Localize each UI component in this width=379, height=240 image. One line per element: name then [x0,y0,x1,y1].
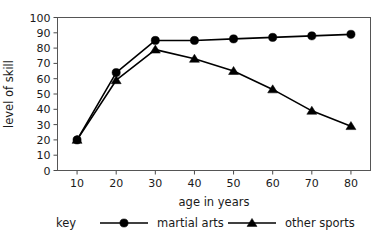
circle-marker [151,36,159,44]
x-tick-label: 10 [70,177,84,190]
y-tick-label: 80 [37,42,51,55]
series-lines-group [77,34,351,140]
y-tick-label: 50 [37,88,51,101]
x-axis-title: age in years [179,195,250,209]
x-tick-label: 20 [109,177,123,190]
y-tick-label: 10 [37,149,51,162]
y-tick-label: 90 [37,27,51,40]
y-tick-label: 60 [37,73,51,86]
circle-marker [347,30,355,38]
chart-canvas: 0102030405060708090100 1020304050607080 … [0,0,379,240]
triangle-marker [150,45,160,53]
x-tick-label: 60 [266,177,280,190]
triangle-marker [268,85,278,93]
circle-marker [269,33,277,41]
circle-marker [120,219,128,227]
y-axis-tick-marks [54,18,58,171]
x-tick-label: 40 [187,177,201,190]
series-markers-group [72,30,356,144]
x-tick-label: 30 [148,177,162,190]
circle-marker [308,32,316,40]
x-axis-tick-labels: 1020304050607080 [70,177,358,190]
series-line-2 [77,50,351,140]
chart-legend: keymartial artsother sports [56,216,355,230]
y-tick-label: 30 [37,119,51,132]
y-axis-title: level of skill [2,60,16,128]
y-tick-label: 100 [30,12,51,25]
legend-key-label: key [56,216,76,230]
line-chart-figure: 0102030405060708090100 1020304050607080 … [0,0,379,240]
circle-marker [229,35,237,43]
triangle-marker [307,106,317,114]
y-tick-label: 40 [37,103,51,116]
y-tick-label: 70 [37,57,51,70]
y-axis-tick-labels: 0102030405060708090100 [30,12,51,178]
legend-entry-label-2: other sports [285,216,355,230]
series-line-1 [77,34,351,140]
x-tick-label: 80 [344,177,358,190]
legend-entry-label-1: martial arts [157,216,224,230]
y-tick-label: 20 [37,134,51,147]
x-axis-tick-marks [77,171,351,175]
x-tick-label: 70 [305,177,319,190]
circle-marker [190,36,198,44]
y-tick-label: 0 [44,165,51,178]
x-tick-label: 50 [227,177,241,190]
